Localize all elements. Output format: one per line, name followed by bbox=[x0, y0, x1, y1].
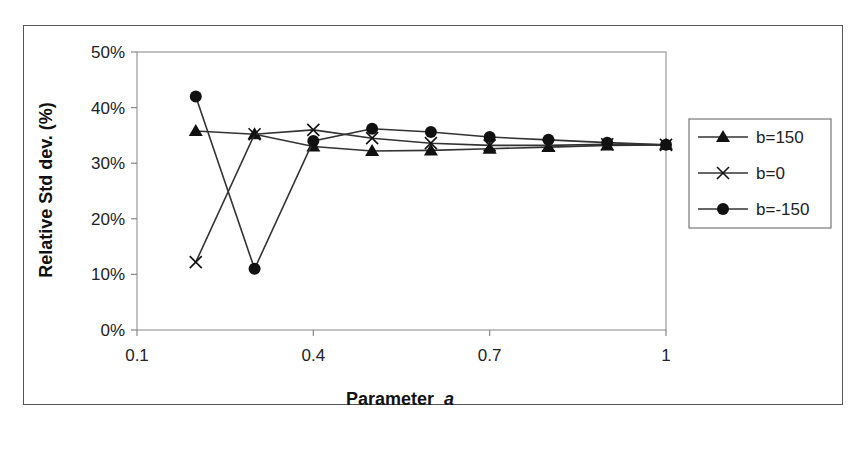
y-tick-label: 50% bbox=[91, 43, 125, 62]
x-axis: 0.10.40.71 bbox=[125, 330, 671, 365]
legend-label: b=150 bbox=[756, 128, 804, 147]
data-point-x bbox=[190, 256, 202, 268]
data-point-circle bbox=[190, 90, 202, 102]
legend-label: b=-150 bbox=[756, 200, 809, 219]
series-line bbox=[196, 96, 666, 268]
y-tick-label: 20% bbox=[91, 210, 125, 229]
data-point-circle bbox=[249, 263, 261, 275]
plot-area bbox=[137, 52, 666, 330]
data-point-circle bbox=[484, 131, 496, 143]
legend: b=150b=0b=-150 bbox=[689, 119, 831, 228]
x-tick-label: 0.7 bbox=[478, 346, 502, 365]
x-tick-label: 0.4 bbox=[302, 346, 326, 365]
data-point-triangle bbox=[189, 124, 203, 136]
y-tick-label: 30% bbox=[91, 154, 125, 173]
x-axis-title-italic: a bbox=[444, 389, 454, 409]
y-tick-label: 40% bbox=[91, 99, 125, 118]
data-point-triangle bbox=[424, 143, 438, 155]
data-point-circle bbox=[660, 139, 672, 151]
data-point-circle bbox=[601, 137, 613, 149]
legend-marker-circle-icon bbox=[717, 203, 729, 215]
series-b=-150 bbox=[190, 90, 672, 274]
x-tick-label: 1 bbox=[661, 346, 670, 365]
y-axis-title: Relative Std dev. (%) bbox=[36, 102, 56, 278]
x-axis-title-main: Parameter bbox=[346, 389, 434, 409]
x-axis-title: Parameter a bbox=[346, 389, 454, 409]
x-tick-label: 0.1 bbox=[125, 346, 149, 365]
y-tick-label: 0% bbox=[100, 321, 125, 340]
line-chart: 0%10%20%30%40%50% 0.10.40.71 Relative St… bbox=[0, 0, 862, 451]
data-point-circle bbox=[425, 126, 437, 138]
y-tick-label: 10% bbox=[91, 265, 125, 284]
data-point-circle bbox=[366, 123, 378, 135]
series-layer bbox=[189, 90, 673, 274]
data-point-circle bbox=[542, 134, 554, 146]
y-axis: 0%10%20%30%40%50% bbox=[91, 43, 137, 340]
data-point-triangle bbox=[483, 142, 497, 154]
legend-label: b=0 bbox=[756, 164, 785, 183]
data-point-circle bbox=[307, 135, 319, 147]
